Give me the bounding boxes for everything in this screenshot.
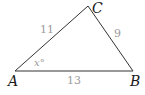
side-label-ac: 11 <box>40 23 54 36</box>
triangle-diagram: A B C 11 9 13 x° <box>0 0 145 95</box>
side-label-cb: 9 <box>114 27 121 40</box>
angle-label-a: x° <box>34 57 45 68</box>
vertex-label-a: A <box>6 73 18 89</box>
vertex-label-b: B <box>129 73 140 89</box>
side-label-ab: 13 <box>67 74 81 87</box>
vertex-label-c: C <box>92 0 103 16</box>
